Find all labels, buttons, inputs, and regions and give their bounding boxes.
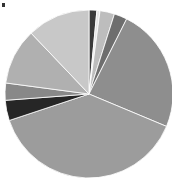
- pie-chart: [0, 0, 172, 180]
